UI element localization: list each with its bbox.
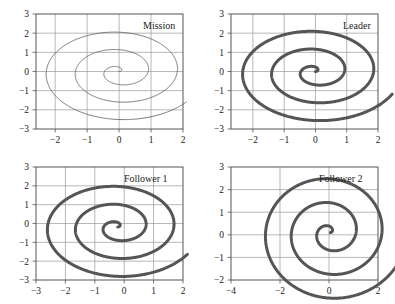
y-tick-label: −1 <box>214 253 224 263</box>
panel-title-mission: Mission <box>143 21 175 31</box>
y-tick-label: 0 <box>24 67 29 77</box>
spiral-trajectory-figure: −2−1012−3−2−10123 Mission −2−1012−3−2−10… <box>0 0 395 304</box>
x-tick-label: 0 <box>313 135 318 145</box>
gridlines <box>36 14 183 129</box>
y-tick-label: 2 <box>219 185 224 195</box>
y-tick-label: 3 <box>219 9 224 19</box>
x-tick-label: −2 <box>275 286 285 296</box>
y-tick-label: 1 <box>219 208 224 218</box>
y-tick-label: 1 <box>24 48 29 58</box>
y-tick-label: 2 <box>219 29 224 39</box>
y-tick-label: −1 <box>214 86 224 96</box>
x-tick-label: 2 <box>181 135 186 145</box>
y-tick-label: −2 <box>214 275 224 285</box>
x-tick-label: 2 <box>181 286 186 296</box>
y-tick-label: −2 <box>214 105 224 115</box>
y-tick-label: 2 <box>24 181 29 191</box>
x-tick-label: −1 <box>82 135 92 145</box>
x-tick-label: −2 <box>50 135 60 145</box>
y-tick-label: −2 <box>19 105 29 115</box>
spiral-curve <box>47 186 187 276</box>
x-tick-label: 1 <box>149 135 154 145</box>
y-tick-label: −1 <box>19 86 29 96</box>
y-tick-label: −3 <box>19 124 29 134</box>
x-tick-label: −2 <box>60 286 70 296</box>
x-tick-label: 2 <box>376 135 381 145</box>
spiral-curve <box>46 32 186 119</box>
x-tick-label: 0 <box>122 286 127 296</box>
panel-follower-2: −4−202−2−10123 <box>231 167 388 302</box>
y-tick-label: 3 <box>24 9 29 19</box>
y-tick-label: 0 <box>219 230 224 240</box>
y-tick-label: −1 <box>19 238 29 248</box>
panel-follower-1: −3−2−1012−3−2−10123 <box>36 167 193 302</box>
y-tick-label: 0 <box>219 67 224 77</box>
panel-title-follower-1: Follower 1 <box>124 174 168 184</box>
x-tick-label: −4 <box>226 286 236 296</box>
x-tick-label: 1 <box>344 135 349 145</box>
y-tick-label: 1 <box>24 200 29 210</box>
y-tick-label: 0 <box>24 219 29 229</box>
x-tick-label: −2 <box>248 135 258 145</box>
y-tick-label: −3 <box>19 275 29 285</box>
y-tick-label: 3 <box>219 162 224 172</box>
y-tick-label: −2 <box>19 257 29 267</box>
y-tick-label: 1 <box>219 48 224 58</box>
x-tick-label: 0 <box>327 286 332 296</box>
y-tick-label: 3 <box>24 162 29 172</box>
x-tick-label: −1 <box>90 286 100 296</box>
panel-title-follower-2: Follower 2 <box>319 174 363 184</box>
x-tick-label: 0 <box>117 135 122 145</box>
spiral-curve <box>243 31 393 120</box>
x-tick-label: −1 <box>279 135 289 145</box>
x-tick-label: 2 <box>376 286 381 296</box>
x-tick-label: 1 <box>151 286 156 296</box>
panel-leader: −2−1012−3−2−10123 <box>231 14 388 151</box>
x-tick-label: −3 <box>31 286 41 296</box>
panel-mission: −2−1012−3−2−10123 <box>36 14 193 151</box>
panel-title-leader: Leader <box>343 21 371 31</box>
y-tick-label: −3 <box>214 124 224 134</box>
y-tick-label: 2 <box>24 29 29 39</box>
